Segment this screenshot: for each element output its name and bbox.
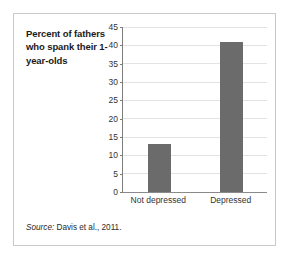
gridline [123, 173, 267, 174]
y-axis-tick-labels: 051015202530354045 [102, 27, 118, 192]
y-tick-mark [120, 82, 123, 83]
source-label: Source: [26, 223, 54, 232]
y-tick-mark [120, 100, 123, 101]
y-tick-label: 0 [102, 188, 118, 197]
figure-frame: Percent of fathers who spank their 1-yea… [13, 13, 276, 246]
y-tick-label: 5 [102, 169, 118, 178]
y-tick-mark [120, 174, 123, 175]
gridline [123, 100, 267, 101]
y-tick-mark [120, 155, 123, 156]
bar [148, 144, 171, 192]
y-tick-label: 10 [102, 151, 118, 160]
y-tick-mark [120, 192, 123, 193]
y-tick-mark [120, 64, 123, 65]
gridline [123, 82, 267, 83]
gridline [123, 45, 267, 46]
y-tick-mark [120, 27, 123, 28]
y-tick-mark [120, 45, 123, 46]
y-tick-label: 45 [102, 23, 118, 32]
x-tick-label: Depressed [210, 195, 251, 205]
source-note: Source: Davis et al., 2011. [26, 223, 121, 232]
gridline [123, 155, 267, 156]
y-tick-label: 15 [102, 133, 118, 142]
gridline [123, 27, 267, 28]
x-axis-tick-labels: Not depressedDepressed [122, 195, 267, 209]
x-tick-label: Not depressed [131, 195, 186, 205]
y-tick-label: 30 [102, 78, 118, 87]
gridline [123, 63, 267, 64]
gridline [123, 137, 267, 138]
source-citation: Davis et al., 2011. [57, 223, 122, 232]
chart-title: Percent of fathers who spank their 1-yea… [26, 27, 110, 67]
y-tick-mark [120, 137, 123, 138]
bar [220, 42, 243, 192]
chart-plot: 051015202530354045 Not depressedDepresse… [102, 27, 267, 209]
axis-baseline [123, 192, 267, 193]
y-tick-label: 25 [102, 96, 118, 105]
y-tick-mark [120, 119, 123, 120]
plot-area [122, 27, 267, 192]
gridline [123, 118, 267, 119]
y-tick-label: 20 [102, 114, 118, 123]
y-tick-label: 40 [102, 41, 118, 50]
y-tick-label: 35 [102, 59, 118, 68]
